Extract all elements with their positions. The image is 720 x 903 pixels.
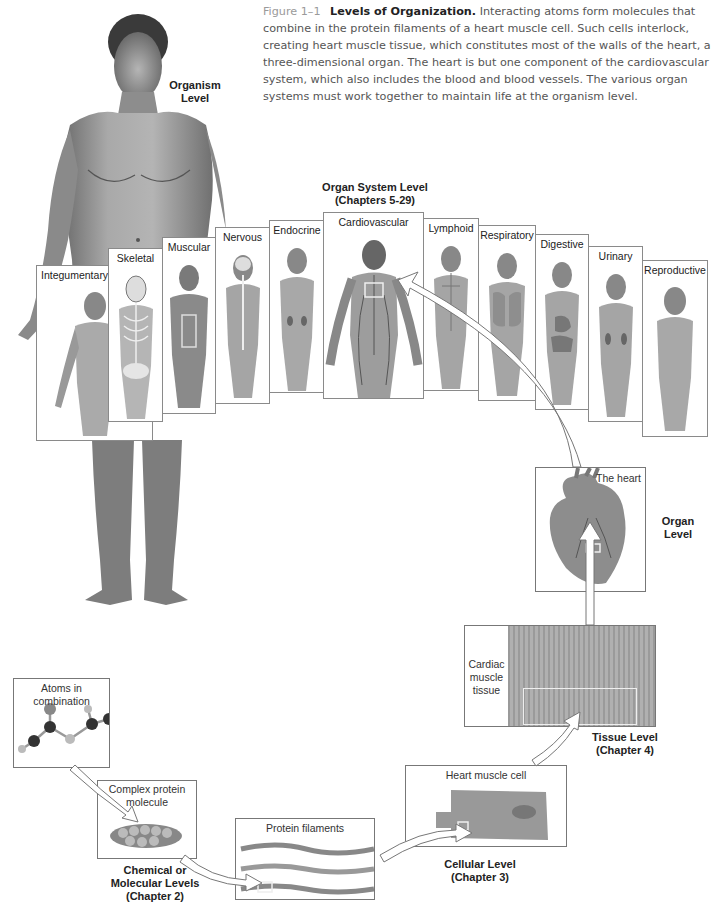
system-panel-endocrine: Endocrine	[269, 220, 325, 393]
cell-box-label: Heart muscle cell	[406, 769, 566, 782]
tissue-level-line1: Tissue Level	[580, 731, 670, 744]
system-label: Respiratory	[479, 229, 535, 241]
system-label: Skeletal	[109, 252, 162, 264]
tissue-box-label: Cardiac muscle tissue	[465, 658, 508, 697]
cellular-level-label: Cellular Level (Chapter 3)	[430, 858, 530, 884]
atoms-box-line1: Atoms in	[14, 682, 109, 695]
system-panel-cardiovascular: Cardiovascular	[323, 212, 424, 399]
protein-box-line2: molecule	[98, 796, 196, 809]
organ-system-level-label: Organ System Level (Chapters 5-29)	[310, 181, 440, 207]
figure-icon	[270, 243, 324, 393]
tissue-box-line3: tissue	[465, 684, 508, 697]
organ-system-level-line2: (Chapters 5-29)	[310, 194, 440, 207]
figure-icon	[109, 271, 163, 421]
heart-box-label: The heart	[596, 472, 641, 485]
cell-highlight-box	[523, 688, 637, 725]
chemical-level-line2: Molecular Levels	[95, 877, 215, 890]
organism-level-line2: Level	[160, 92, 230, 105]
system-label: Urinary	[589, 250, 642, 262]
protein-box-label: Complex protein molecule	[98, 783, 196, 809]
system-label: Lymphoid	[424, 222, 478, 234]
organ-level-line2: Level	[648, 528, 708, 541]
system-label: Nervous	[216, 231, 269, 243]
figure-icon	[535, 257, 589, 407]
figure-icon	[424, 241, 478, 391]
filaments-box-label: Protein filaments	[236, 822, 374, 835]
system-panel-urinary: Urinary	[588, 246, 643, 422]
organism-level-label: Organism Level	[160, 79, 230, 105]
system-panel-respiratory: Respiratory	[478, 225, 536, 401]
organ-level-label: Organ Level	[648, 515, 708, 541]
organ-level-line1: Organ	[648, 515, 708, 528]
tissue-level-label: Tissue Level (Chapter 4)	[580, 731, 670, 757]
atoms-box-line2: combination	[14, 695, 109, 708]
tissue-box: Cardiac muscle tissue	[464, 625, 656, 727]
protein-box: Complex protein molecule	[97, 780, 197, 859]
figure-icon	[589, 269, 643, 419]
system-panel-muscular: Muscular	[162, 237, 216, 414]
atoms-box: Atoms in combination	[13, 678, 110, 768]
system-label: Muscular	[163, 241, 215, 253]
organ-system-level-line1: Organ System Level	[310, 181, 440, 194]
system-label: Endocrine	[270, 224, 324, 236]
system-panel-nervous: Nervous	[215, 227, 270, 404]
figure-icon	[324, 235, 424, 399]
atoms-box-label: Atoms in combination	[14, 682, 109, 708]
chemical-level-line3: (Chapter 2)	[95, 890, 215, 903]
tissue-box-line1: Cardiac	[465, 658, 508, 671]
filaments-box: Protein filaments	[235, 818, 375, 900]
figure-icon	[162, 260, 216, 410]
figure-icon	[645, 283, 705, 433]
system-label: Cardiovascular	[324, 216, 423, 228]
system-panel-digestive: Digestive	[535, 234, 589, 410]
chemical-level-label: Chemical or Molecular Levels (Chapter 2)	[95, 864, 215, 903]
figure-icon	[479, 248, 535, 398]
system-label: Digestive	[536, 238, 588, 250]
system-panel-lymphoid: Lymphoid	[423, 218, 479, 391]
figure-icon	[216, 250, 270, 400]
system-panel-reproductive: Reproductive	[642, 260, 708, 437]
cell-box: Heart muscle cell	[405, 765, 567, 847]
chemical-level-line1: Chemical or	[95, 864, 215, 877]
tissue-level-line2: (Chapter 4)	[580, 744, 670, 757]
system-label: Reproductive	[643, 264, 707, 276]
organism-level-line1: Organism	[160, 79, 230, 92]
heart-illustration	[536, 468, 646, 592]
cellular-level-line2: (Chapter 3)	[430, 871, 530, 884]
protein-box-line1: Complex protein	[98, 783, 196, 796]
system-panel-skeletal: Skeletal	[108, 248, 163, 422]
heart-box: The heart	[535, 467, 646, 592]
tissue-box-line2: muscle	[465, 671, 508, 684]
cellular-level-line1: Cellular Level	[430, 858, 530, 871]
